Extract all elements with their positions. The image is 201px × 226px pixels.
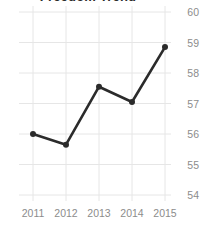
data-point-marker xyxy=(63,142,69,148)
y-axis-tick-label: 58 xyxy=(171,67,199,79)
chart-container: Freedom Trend 54555657585960 20112012201… xyxy=(0,0,201,226)
y-axis-tick-label: 54 xyxy=(171,189,199,201)
y-axis-tick-label: 57 xyxy=(171,98,199,110)
x-axis-tick-label: 2015 xyxy=(143,207,187,219)
horizontal-gridlines xyxy=(19,12,171,195)
y-axis-tick-label: 60 xyxy=(171,6,199,18)
y-axis-tick-label: 55 xyxy=(171,159,199,171)
y-axis-tick-label: 56 xyxy=(171,128,199,140)
data-point-marker xyxy=(129,99,135,105)
data-point-marker xyxy=(162,44,168,50)
y-axis-tick-label: 59 xyxy=(171,37,199,49)
data-point-marker xyxy=(30,131,36,137)
data-point-marker xyxy=(96,84,102,90)
